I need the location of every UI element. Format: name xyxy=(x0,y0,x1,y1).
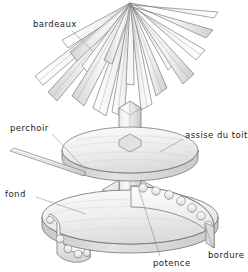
label-fond: fond xyxy=(5,189,26,199)
label-assise-du-toit: assise du toit xyxy=(185,130,248,140)
label-perchoir: perchoir xyxy=(10,123,49,133)
label-bardeaux: bardeaux xyxy=(33,19,77,29)
label-bordure: bordure xyxy=(208,250,244,260)
exploded-assembly-diagram: bardeaux perchoir assise du toit fond po… xyxy=(0,0,248,272)
label-potence: potence xyxy=(153,258,191,268)
